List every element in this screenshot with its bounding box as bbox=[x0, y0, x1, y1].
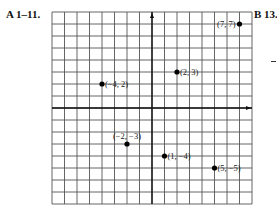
data-point-label: (2, 3) bbox=[180, 67, 199, 77]
data-point-label: (−2, −3) bbox=[113, 131, 141, 141]
data-point-label: (5, −5) bbox=[218, 163, 241, 173]
data-point bbox=[212, 165, 217, 170]
coordinate-grid: (7, 7)(−4, 2)(2, 3)(−2, −3)(1, −4)(5, −5… bbox=[0, 0, 277, 207]
data-point-label: (−4, 2) bbox=[105, 79, 128, 89]
data-point bbox=[174, 69, 179, 74]
y-axis-arrow-icon bbox=[150, 13, 154, 18]
data-point-label: (1, −4) bbox=[168, 151, 191, 161]
data-point bbox=[99, 81, 104, 86]
data-point bbox=[237, 21, 242, 26]
x-axis-arrow-icon bbox=[246, 106, 251, 110]
data-point bbox=[162, 153, 167, 158]
data-point bbox=[124, 141, 129, 146]
data-point-label: (7, 7) bbox=[217, 19, 236, 29]
